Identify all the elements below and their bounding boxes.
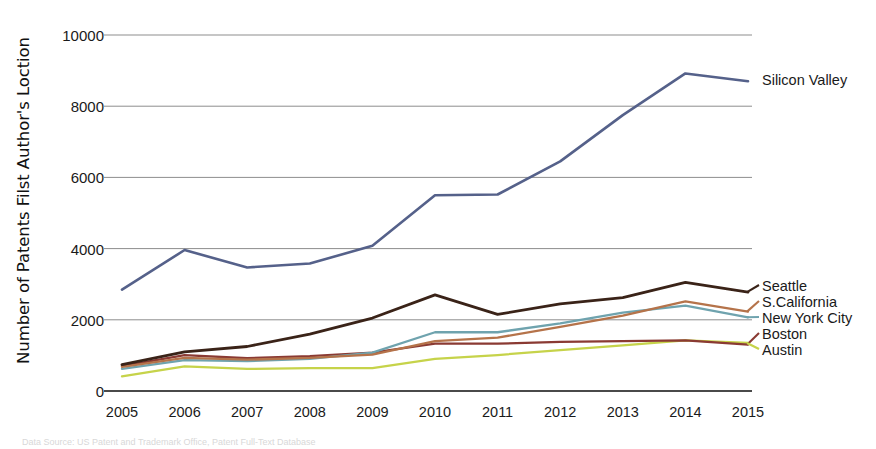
legend-label-s-california: S.California xyxy=(762,294,837,310)
x-tick-2011: 2011 xyxy=(463,404,533,420)
x-tick-2006: 2006 xyxy=(150,404,220,420)
x-tick-2007: 2007 xyxy=(212,404,282,420)
x-tick-2008: 2008 xyxy=(275,404,345,420)
patents-by-location-line-chart: Number of Patents Filst Author's Loction… xyxy=(0,0,876,449)
legend-label-silicon-valley: Silicon Valley xyxy=(762,72,847,88)
x-tick-2010: 2010 xyxy=(400,404,470,420)
x-tick-2013: 2013 xyxy=(588,404,658,420)
plot-svg xyxy=(104,0,770,449)
y-tick-6000: 6000 xyxy=(34,169,104,186)
x-tick-2015: 2015 xyxy=(713,404,783,420)
gridlines xyxy=(104,35,752,320)
y-tick-2000: 2000 xyxy=(34,311,104,328)
series-lines xyxy=(122,73,748,376)
y-tick-10000: 10000 xyxy=(34,27,104,44)
legend-label-new-york-city: New York City xyxy=(762,310,852,326)
y-tick-4000: 4000 xyxy=(34,240,104,257)
x-tick-2005: 2005 xyxy=(87,404,157,420)
y-tick-8000: 8000 xyxy=(34,98,104,115)
x-tick-2012: 2012 xyxy=(525,404,595,420)
plot-area: 2005200620072008200920102011201220132014… xyxy=(104,0,770,449)
x-tick-2014: 2014 xyxy=(650,404,720,420)
series-line-boston xyxy=(122,340,748,366)
y-axis-tick-labels: 0200040006000800010000 xyxy=(34,0,104,449)
y-tick-0: 0 xyxy=(34,383,104,400)
figure-caption: Data Source: US Patent and Trademark Off… xyxy=(22,437,315,447)
y-axis-label: Number of Patents Filst Author's Loction xyxy=(14,37,33,364)
series-line-seattle xyxy=(122,282,748,364)
x-tick-2009: 2009 xyxy=(337,404,407,420)
